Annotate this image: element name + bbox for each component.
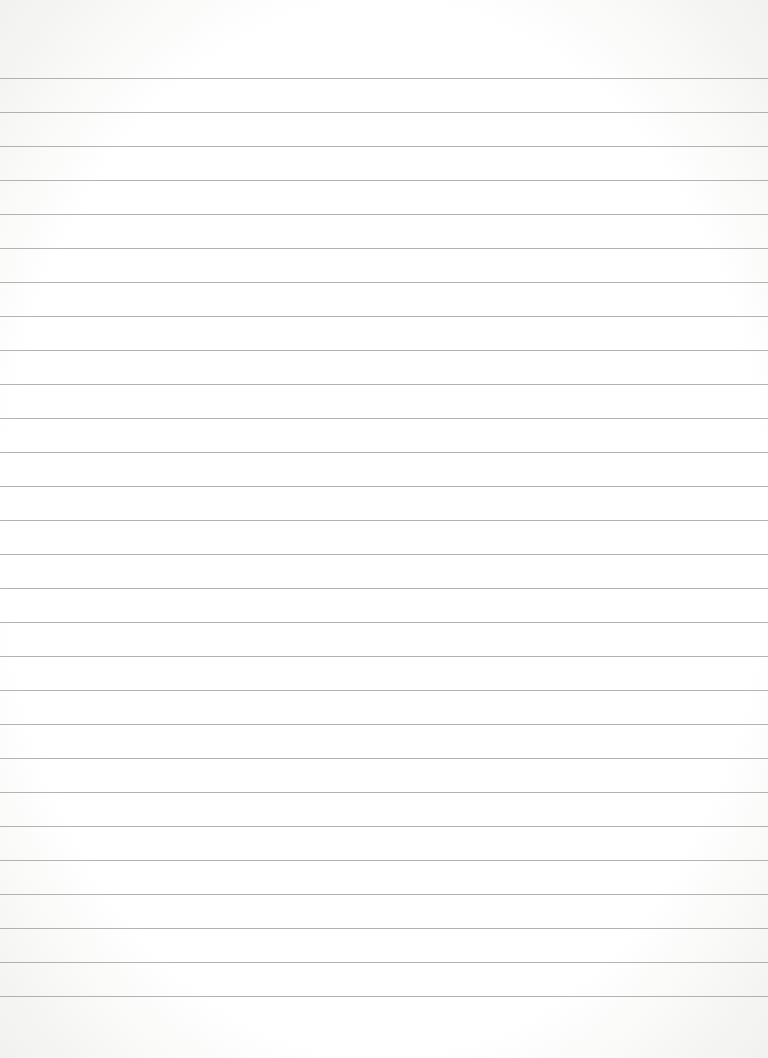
ruled-line — [0, 758, 768, 759]
ruled-line — [0, 112, 768, 113]
ruled-line — [0, 248, 768, 249]
ruled-line — [0, 622, 768, 623]
ruled-line — [0, 826, 768, 827]
ruled-line — [0, 214, 768, 215]
ruled-line — [0, 486, 768, 487]
ruled-line — [0, 452, 768, 453]
lined-paper-sheet — [0, 0, 768, 1058]
ruled-line — [0, 384, 768, 385]
ruled-line — [0, 656, 768, 657]
ruled-line — [0, 962, 768, 963]
ruled-line — [0, 554, 768, 555]
ruled-line — [0, 996, 768, 997]
ruled-line — [0, 146, 768, 147]
ruled-line — [0, 520, 768, 521]
ruled-line — [0, 180, 768, 181]
ruled-line — [0, 792, 768, 793]
ruled-line — [0, 894, 768, 895]
ruled-line — [0, 928, 768, 929]
ruled-line — [0, 588, 768, 589]
ruled-line — [0, 690, 768, 691]
ruled-line — [0, 282, 768, 283]
ruled-line — [0, 724, 768, 725]
ruled-line — [0, 350, 768, 351]
ruled-line — [0, 316, 768, 317]
ruled-line — [0, 78, 768, 79]
ruled-line — [0, 418, 768, 419]
ruled-line — [0, 860, 768, 861]
